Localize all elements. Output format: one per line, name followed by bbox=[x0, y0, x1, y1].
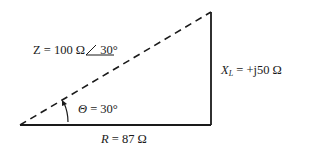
z-magnitude: Z = 100 Ω bbox=[33, 43, 85, 57]
angle-arc-arrow bbox=[64, 103, 68, 122]
r-value: = 87 Ω bbox=[109, 132, 147, 146]
theta-symbol: Θ bbox=[78, 102, 87, 116]
xl-symbol: X bbox=[221, 63, 229, 77]
r-symbol: R bbox=[101, 132, 109, 146]
theta-value: = 30° bbox=[87, 102, 118, 116]
xl-value: = +j50 Ω bbox=[233, 63, 282, 77]
r-label: R = 87 Ω bbox=[101, 133, 147, 146]
xl-label: XL = +j50 Ω bbox=[221, 64, 282, 78]
z-angle: 30° bbox=[100, 43, 118, 57]
theta-label: Θ = 30° bbox=[78, 103, 118, 116]
z-label: Z = 100 Ω 30° bbox=[33, 44, 118, 57]
